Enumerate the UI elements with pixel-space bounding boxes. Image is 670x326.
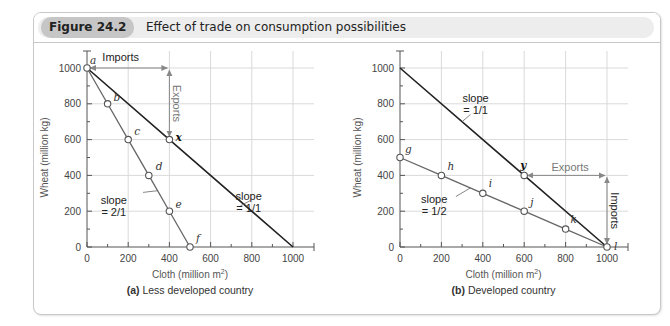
slope-label: slope= 1/1 [462,92,488,116]
panel-a-less-developed: 0200400600800100002004006008001000Cloth … [39,51,314,296]
y-axis-title: Wheat (million kg) [39,117,50,197]
point-label-h: h [447,160,454,172]
grid [400,51,628,247]
point-label-j: j [528,196,534,208]
slope-label: slope= 2/1 [101,194,127,218]
x-tick-label: 1000 [596,253,619,264]
x-axis-title: Cloth (million m2) [152,268,228,280]
x-tick-label: 1000 [282,253,305,264]
x-tick-label: 200 [120,253,137,264]
point-label-y: y [519,159,527,171]
y-tick-label: 200 [64,206,81,217]
point-h [438,172,444,178]
point-l [604,244,610,250]
x-tick-label: 400 [161,253,178,264]
slope-leader-line [143,191,158,193]
y-tick-label: 1000 [59,63,82,74]
point-x [166,136,172,142]
point-b [104,101,110,107]
panel-title: (b) Developed country [452,284,557,296]
point-e [166,208,172,214]
y-tick-label: 200 [377,206,394,217]
point-label-x: x [174,131,182,143]
x-tick-label: 0 [84,253,90,264]
y-tick-label: 800 [377,98,394,109]
trade-arrow-label: Imports [102,51,139,63]
y-tick-label: 400 [64,170,81,181]
slope-label: slope= 1/1 [236,190,262,214]
y-tick-label: 600 [64,134,81,145]
y-tick-label: 0 [75,242,81,253]
x-tick-label: 600 [202,253,219,264]
figure-chart: 0200400600800100002004006008001000Cloth … [0,0,670,326]
x-axis-title: Cloth (million m2) [465,268,541,280]
point-label-a: a [90,54,96,66]
x-tick-label: 0 [397,253,403,264]
trade-arrow-label: Imports [609,192,621,229]
point-d [146,172,152,178]
panel-b-developed: 0200400600800100002004006008001000Cloth … [352,51,628,296]
point-f [187,244,193,250]
slope-leader-line [456,188,470,197]
trade-arrow-label: Exports [551,161,589,173]
point-j [521,208,527,214]
x-tick-label: 600 [516,253,533,264]
point-label-b: b [114,91,121,103]
x-tick-label: 400 [474,253,491,264]
point-label-e: e [175,198,181,210]
panel-title: (a) Less developed country [127,284,254,296]
x-tick-label: 200 [433,253,450,264]
y-tick-label: 400 [377,170,394,181]
point-g [397,154,403,160]
point-label-l: l [614,240,617,252]
x-tick-label: 800 [557,253,574,264]
point-y [521,172,527,178]
point-label-g: g [405,143,412,155]
y-tick-label: 600 [377,134,394,145]
slope-label: slope= 1/2 [421,193,447,217]
point-label-k: k [571,213,577,225]
point-label-i: i [489,177,492,189]
y-tick-label: 0 [388,242,394,253]
point-label-c: c [134,125,140,137]
y-tick-label: 800 [64,98,81,109]
trade-arrow-label: Exports [171,85,183,123]
point-i [480,190,486,196]
point-label-d: d [156,160,163,172]
point-c [125,136,131,142]
y-tick-label: 1000 [372,63,395,74]
y-axis-title: Wheat (million kg) [352,117,363,197]
point-k [562,226,568,232]
x-tick-label: 800 [243,253,260,264]
point-label-f: f [195,232,202,244]
